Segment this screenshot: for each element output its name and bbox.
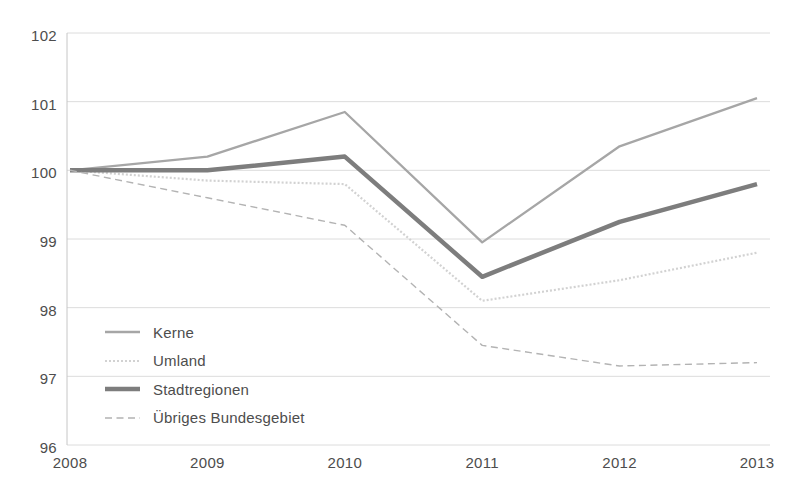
legend-item-kerne: Kerne <box>105 323 194 341</box>
legend-label-kerne: Kerne <box>153 324 194 341</box>
y-tick-label-97: 97 <box>0 371 57 386</box>
x-tick-label-2008: 2008 <box>38 455 102 470</box>
legend-line-sample-umland <box>105 352 140 370</box>
legend-item-uebriges-bundesgebiet: Übriges Bundesgebiet <box>105 409 305 427</box>
legend-item-stadtregionen: Stadtregionen <box>105 380 249 398</box>
y-tick-label-99: 99 <box>0 234 57 249</box>
legend-item-umland: Umland <box>105 352 206 370</box>
series-line-stadtregionen <box>70 157 757 277</box>
x-tick-label-2009: 2009 <box>175 455 239 470</box>
series-line-umland <box>70 170 757 300</box>
y-tick-label-96: 96 <box>0 440 57 455</box>
legend-line-sample-uebriges-bundesgebiet <box>105 409 140 427</box>
x-tick-label-2013: 2013 <box>725 455 789 470</box>
legend-label-stadtregionen: Stadtregionen <box>153 381 249 398</box>
x-tick-label-2011: 2011 <box>450 455 514 470</box>
x-tick-label-2012: 2012 <box>588 455 652 470</box>
y-tick-label-98: 98 <box>0 303 57 318</box>
y-tick-label-102: 102 <box>0 28 57 43</box>
legend-label-uebriges-bundesgebiet: Übriges Bundesgebiet <box>153 409 305 426</box>
index-line-chart-figure: 96979899100101102 2008200920102011201220… <box>0 0 794 500</box>
y-tick-label-101: 101 <box>0 97 57 112</box>
x-tick-label-2010: 2010 <box>313 455 377 470</box>
legend-line-sample-kerne <box>105 323 140 341</box>
y-tick-label-100: 100 <box>0 165 57 180</box>
legend-line-sample-stadtregionen <box>105 380 140 398</box>
legend-label-umland: Umland <box>153 352 206 369</box>
